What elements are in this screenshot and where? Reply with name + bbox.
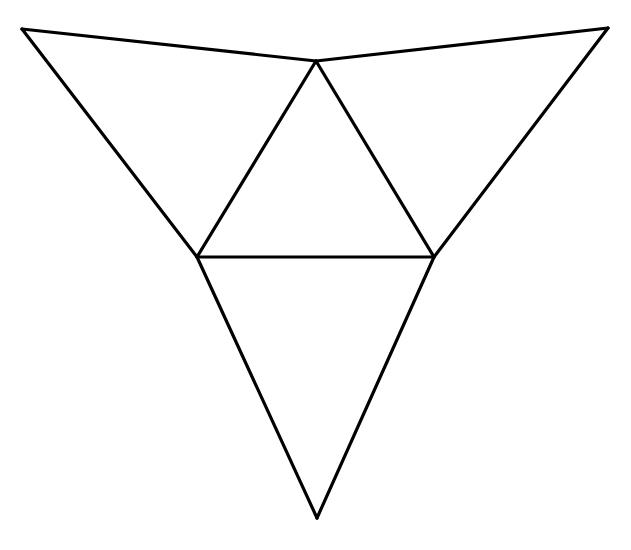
edge-top-left-to-apex bbox=[22, 29, 316, 61]
edge-left-mid-to-bottom bbox=[197, 257, 317, 518]
diagram-canvas bbox=[0, 0, 631, 550]
face-bottom bbox=[197, 257, 434, 518]
faces-layer bbox=[22, 28, 608, 518]
edge-apex-to-left-mid bbox=[197, 61, 316, 257]
edge-right-mid-to-bottom bbox=[317, 257, 434, 518]
face-center bbox=[197, 61, 434, 257]
edge-apex-to-top-right bbox=[316, 28, 608, 61]
tetrahedron-net-diagram bbox=[0, 0, 631, 550]
edge-top-right-to-right-mid bbox=[434, 28, 608, 257]
edge-top-left-to-left-mid bbox=[22, 29, 197, 257]
edge-apex-to-right-mid bbox=[316, 61, 434, 257]
edges-layer bbox=[22, 28, 608, 518]
